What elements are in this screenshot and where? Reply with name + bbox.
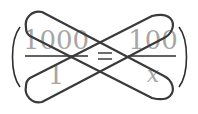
right-numerator: 100 [128, 25, 178, 55]
right-denominator: x [147, 62, 160, 87]
right-parenthesis [179, 27, 187, 87]
left-parenthesis [13, 27, 21, 87]
cross-multiplication-diagram: 1000 1 100 x [0, 0, 198, 114]
equals-sign [98, 53, 112, 59]
left-numerator: 1000 [23, 25, 89, 55]
